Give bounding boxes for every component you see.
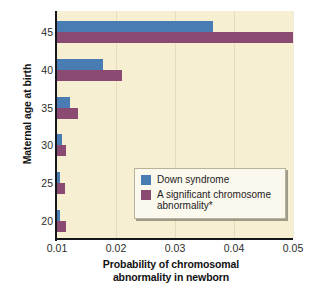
bar-45-chromosome-abnormality [57, 32, 293, 43]
y-tick-label: 25 [5, 178, 53, 188]
x-tick-label: 0.02 [94, 242, 138, 254]
bar-30-chromosome-abnormality [57, 145, 66, 156]
legend-label-chromosome-abnormality: A significant chromosome abnormality* [157, 189, 281, 212]
x-axis-title: Probability of chromosomal abnormality i… [40, 258, 302, 283]
bar-20-down-syndrome [57, 210, 60, 221]
y-axis-line [55, 11, 57, 241]
gridline [293, 11, 294, 238]
x-axis-line [55, 238, 293, 240]
y-tick-label: 20 [5, 216, 53, 226]
legend-label-down-syndrome: Down syndrome [157, 174, 229, 186]
bar-chart: Maternal age at birth 202530354045 0.010… [0, 0, 314, 291]
bar-20-chromosome-abnormality [57, 221, 66, 232]
legend-item-down-syndrome: Down syndrome [141, 174, 281, 186]
y-tick-label: 40 [5, 65, 53, 75]
gridline [116, 11, 117, 238]
y-tick-label: 35 [5, 103, 53, 113]
y-tick-label: 30 [5, 140, 53, 150]
bar-40-chromosome-abnormality [57, 70, 122, 81]
legend-item-chromosome-abnormality: A significant chromosome abnormality* [141, 189, 281, 212]
x-tick-label: 0.05 [271, 242, 314, 254]
legend-swatch-icon-down-syndrome [141, 175, 151, 185]
x-axis-title-line-1: Probability of chromosomal [40, 258, 302, 271]
bar-25-chromosome-abnormality [57, 183, 65, 194]
bar-45-down-syndrome [57, 21, 213, 32]
x-axis-title-line-2: abnormality in newborn [40, 271, 302, 284]
y-tick-label: 45 [5, 27, 53, 37]
x-tick-label: 0.03 [153, 242, 197, 254]
bar-25-down-syndrome [57, 172, 60, 183]
bar-35-chromosome-abnormality [57, 108, 78, 119]
bar-40-down-syndrome [57, 59, 103, 70]
chart-legend: Down syndrome A significant chromosome a… [134, 168, 286, 219]
x-tick-label: 0.04 [212, 242, 256, 254]
x-tick-label: 0.01 [35, 242, 79, 254]
legend-swatch-icon-chromosome-abnormality [141, 190, 151, 200]
bar-35-down-syndrome [57, 97, 70, 108]
bar-30-down-syndrome [57, 134, 62, 145]
